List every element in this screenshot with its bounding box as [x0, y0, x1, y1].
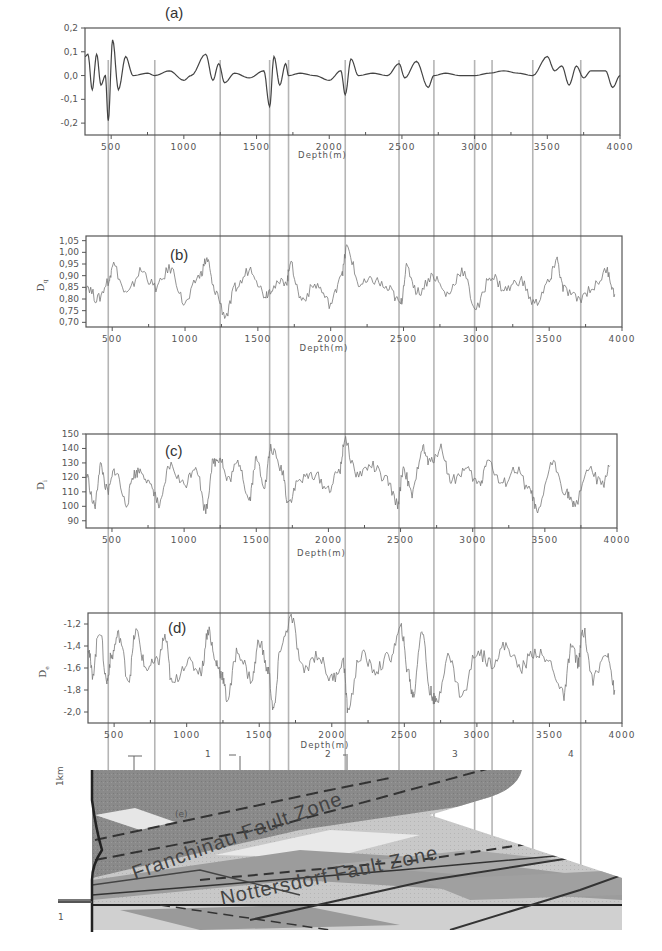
section-marker-2: 2: [325, 749, 331, 759]
data-series: [85, 40, 620, 121]
y-tick-label: -1,8: [63, 685, 81, 695]
x-tick-label: 3000: [463, 334, 490, 344]
x-tick-label: 1500: [243, 142, 270, 152]
y-tick-label: -0,2: [60, 118, 78, 128]
x-axis-label: Depth(m): [298, 150, 347, 160]
x-tick-label: 500: [104, 730, 124, 740]
y-tick-label: -1,6: [63, 663, 81, 673]
y-tick-label: 0,90: [59, 271, 79, 281]
panel-a-wavelet: 0,20,10,0-0,1-0,250010001500200025003000…: [60, 4, 633, 160]
x-tick-label: 500: [101, 142, 121, 152]
section-marker-3: 3: [452, 749, 458, 759]
x-tick-label: 4000: [609, 730, 636, 740]
y-tick-label: 0,95: [59, 259, 79, 269]
x-tick-label: 3000: [459, 535, 486, 545]
plot-frame: [86, 236, 622, 327]
figure: 0,20,10,0-0,1-0,250010001500200025003000…: [0, 0, 662, 951]
x-tick-label: 500: [102, 334, 122, 344]
y-tick-label: 0,70: [59, 317, 79, 327]
data-series: [86, 245, 615, 319]
x-axis-label: Depth(m): [297, 548, 346, 558]
y-tick-label: 130: [62, 458, 79, 468]
y-tick-label: -1,2: [63, 619, 81, 629]
x-tick-label: 1000: [171, 535, 198, 545]
x-tick-label: 1000: [173, 730, 200, 740]
x-tick-label: 3500: [536, 334, 563, 344]
plot-frame: [85, 28, 620, 135]
x-tick-label: 1500: [246, 730, 273, 740]
y-axis-label: Di: [35, 480, 48, 490]
section-marker-1: 1: [205, 749, 211, 759]
panel-label: (a): [165, 4, 183, 21]
data-series: [88, 614, 615, 713]
panel-e-cross-section: 1 2 3 4 1km 1: [55, 749, 622, 932]
panel-label: (b): [170, 246, 188, 263]
x-tick-label: 3500: [536, 730, 563, 740]
x-tick-label: 2500: [387, 535, 414, 545]
x-tick-label: 3000: [463, 730, 490, 740]
x-tick-label: 1000: [172, 334, 199, 344]
x-tick-label: 500: [102, 535, 122, 545]
y-tick-label: 0,75: [59, 306, 79, 316]
x-tick-label: 4000: [604, 535, 631, 545]
y-axis-label: Dq: [35, 279, 49, 291]
y-tick-label: 90: [68, 516, 80, 526]
panel-b-dq: 1,051,000,950,900,850,800,750,7050010001…: [35, 236, 635, 353]
scale-mark-bottom: 1: [58, 912, 64, 922]
panel-label: (d): [168, 619, 186, 636]
x-tick-label: 2000: [315, 535, 342, 545]
y-tick-label: 0,0: [64, 71, 79, 81]
y-tick-label: 1,00: [59, 247, 79, 257]
y-tick-label: -1,4: [63, 641, 81, 651]
y-tick-label: 150: [62, 429, 79, 439]
section-marker-4: 4: [568, 749, 574, 759]
y-tick-label: -0,1: [60, 94, 78, 104]
x-tick-label: 2500: [391, 730, 418, 740]
x-tick-label: 1500: [244, 334, 271, 344]
y-tick-label: 0,80: [59, 294, 79, 304]
panel-c-di: 1501401301201101009050010001500200025003…: [35, 429, 630, 558]
x-tick-label: 4000: [607, 142, 634, 152]
x-tick-label: 4000: [609, 334, 636, 344]
y-tick-label: -2,0: [63, 707, 81, 717]
x-tick-label: 3500: [534, 142, 561, 152]
y-tick-label: 110: [62, 487, 79, 497]
x-tick-label: 2500: [390, 334, 417, 344]
panel-d-de: -1,2-1,4-1,6-1,8-2,050010001500200025003…: [37, 613, 635, 750]
x-tick-label: 3000: [461, 142, 488, 152]
x-tick-label: 1500: [243, 535, 270, 545]
x-axis-label: Depth(m): [300, 343, 349, 353]
x-tick-label: 3500: [531, 535, 558, 545]
y-tick-label: 140: [62, 443, 79, 453]
y-tick-label: 0,1: [64, 47, 78, 57]
y-tick-label: 1,05: [59, 236, 79, 246]
x-tick-label: 1000: [170, 142, 197, 152]
y-tick-label: 100: [62, 501, 79, 511]
x-tick-label: 2500: [388, 142, 415, 152]
y-axis-label: De: [37, 666, 50, 678]
panel-label: (c): [165, 442, 183, 459]
x-tick-label: 2000: [318, 730, 345, 740]
y-tick-label: 120: [62, 472, 79, 482]
y-tick-label: 0,2: [64, 23, 78, 33]
scale-mark-top: 1km: [55, 766, 65, 786]
panel-label-e: (e): [175, 809, 188, 819]
y-tick-label: 0,85: [59, 282, 79, 292]
section-markers: 1 2 3 4: [128, 749, 574, 770]
